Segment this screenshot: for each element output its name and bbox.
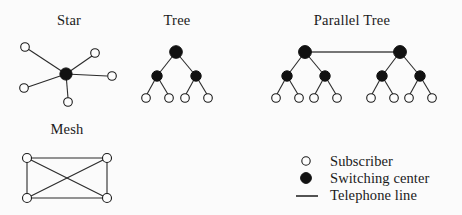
node-subscriber [23, 194, 32, 203]
node-subscriber [21, 43, 30, 52]
node-subscriber [103, 154, 112, 163]
node-switching-center [299, 46, 312, 59]
open-circle-icon [302, 157, 310, 165]
node-subscriber [428, 94, 437, 103]
parallel-tree-title: Parallel Tree [314, 12, 390, 28]
topology-star: Star [20, 12, 117, 106]
legend-item-switching-center: Switching center [301, 170, 430, 186]
node-switching-center [394, 46, 407, 59]
legend: Subscriber Switching center Telephone li… [296, 153, 430, 203]
node-subscriber [390, 94, 399, 103]
node-switching-center [377, 71, 387, 81]
node-switching-center [320, 71, 330, 81]
tree-title: Tree [164, 12, 191, 28]
node-subscriber [142, 94, 151, 103]
topology-tree: Tree [142, 12, 213, 102]
node-subscriber [204, 94, 213, 103]
network-topology-figure: Star Tree [0, 0, 462, 215]
parallel-tree-links [276, 52, 432, 96]
node-subscriber [23, 154, 32, 163]
node-subscriber [181, 94, 190, 103]
topology-parallel-tree: Parallel Tree [272, 12, 437, 102]
legend-item-subscriber: Subscriber [302, 153, 393, 169]
node-switching-center [415, 71, 425, 81]
node-subscriber [333, 94, 342, 103]
node-subscriber [295, 94, 304, 103]
legend-label-switching-center: Switching center [330, 170, 430, 186]
legend-item-telephone-line: Telephone line [296, 187, 417, 203]
node-subscriber [405, 94, 414, 103]
node-subscriber [367, 94, 376, 103]
star-title: Star [57, 12, 81, 28]
node-subscriber [165, 94, 174, 103]
link-line [28, 49, 66, 74]
node-switching-center [170, 46, 183, 59]
mesh-title: Mesh [50, 121, 84, 137]
node-switching-center [152, 71, 162, 81]
legend-label-telephone-line: Telephone line [330, 187, 417, 203]
filled-circle-icon [301, 173, 312, 184]
node-subscriber [91, 49, 100, 58]
legend-label-subscriber: Subscriber [330, 153, 393, 169]
tree-nodes [142, 46, 213, 103]
node-subscriber [20, 84, 29, 93]
node-switching-center [282, 71, 292, 81]
node-subscriber [108, 72, 117, 81]
node-subscriber [64, 98, 73, 107]
topology-mesh: Mesh [23, 121, 112, 203]
diagram-canvas: Star Tree [0, 0, 462, 215]
node-subscriber [103, 194, 112, 203]
node-subscriber [310, 94, 319, 103]
parallel-tree-nodes [272, 46, 437, 103]
node-switching-center [191, 71, 201, 81]
mesh-links [27, 158, 107, 198]
node-switching-center [60, 68, 72, 80]
node-subscriber [272, 94, 281, 103]
